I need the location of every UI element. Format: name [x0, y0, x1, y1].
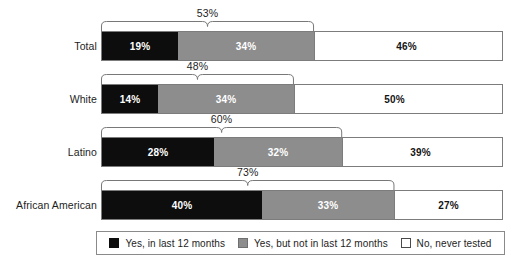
bar-segment-black: 40% [102, 191, 262, 219]
bar-segment-white: 27% [394, 191, 502, 219]
bar-row: African American40%33%27% [0, 190, 516, 220]
legend-swatch-gray-icon [238, 238, 248, 248]
legend-item[interactable]: Yes, but not in last 12 months [238, 238, 388, 249]
segment-value-label: 19% [130, 41, 151, 52]
segment-value-label: 46% [396, 41, 417, 52]
segment-value-label: 28% [148, 147, 169, 158]
brace-icon [101, 73, 294, 84]
bar-row: Latino28%32%39% [0, 137, 516, 167]
bar-segment-white: 50% [294, 85, 494, 113]
category-label: White [70, 93, 97, 105]
brace-icon [101, 20, 314, 31]
category-label: Latino [68, 146, 97, 158]
bar-segment-gray: 34% [178, 32, 314, 60]
segment-value-label: 34% [236, 41, 257, 52]
bar-track: 14%34%50% [101, 84, 503, 114]
brace-icon [101, 179, 394, 190]
bar-track: 28%32%39% [101, 137, 503, 167]
legend-item[interactable]: No, never tested [401, 238, 492, 249]
bar-segment-white: 39% [342, 138, 498, 166]
brace-annotation: 73% [101, 166, 394, 190]
bar-segment-gray: 33% [262, 191, 394, 219]
bar-row: Total19%34%46% [0, 31, 516, 61]
segment-value-label: 14% [120, 94, 141, 105]
bar-segment-black: 28% [102, 138, 214, 166]
legend-label: Yes, but not in last 12 months [254, 238, 388, 249]
segment-value-label: 34% [216, 94, 237, 105]
legend-swatch-black-icon [109, 238, 119, 248]
segment-value-label: 39% [410, 147, 431, 158]
stacked-bar-chart: 53%Total19%34%46%48%White14%34%50%60%Lat… [0, 0, 516, 270]
brace-value-label: 48% [101, 60, 294, 72]
segment-value-label: 50% [384, 94, 405, 105]
legend-label: No, never tested [417, 238, 492, 249]
brace-value-label: 73% [101, 166, 394, 178]
bar-segment-white: 46% [314, 32, 498, 60]
segment-value-label: 40% [172, 200, 193, 211]
brace-value-label: 60% [101, 113, 342, 125]
brace-value-label: 53% [101, 7, 314, 19]
bar-segment-black: 19% [102, 32, 178, 60]
bar-segment-gray: 32% [214, 138, 342, 166]
brace-annotation: 53% [101, 7, 314, 31]
brace-annotation: 48% [101, 60, 294, 84]
legend-label: Yes, in last 12 months [125, 238, 225, 249]
brace-icon [101, 126, 342, 137]
category-label: Total [74, 40, 97, 52]
legend-swatch-white-icon [401, 238, 411, 248]
brace-annotation: 60% [101, 113, 342, 137]
segment-value-label: 27% [438, 200, 459, 211]
bar-segment-black: 14% [102, 85, 158, 113]
legend-item[interactable]: Yes, in last 12 months [109, 238, 225, 249]
bar-track: 19%34%46% [101, 31, 503, 61]
bar-track: 40%33%27% [101, 190, 503, 220]
segment-value-label: 33% [318, 200, 339, 211]
category-label: African American [16, 199, 97, 211]
bar-segment-gray: 34% [158, 85, 294, 113]
chart-legend: Yes, in last 12 monthsYes, but not in la… [96, 231, 505, 255]
segment-value-label: 32% [268, 147, 289, 158]
bar-row: White14%34%50% [0, 84, 516, 114]
